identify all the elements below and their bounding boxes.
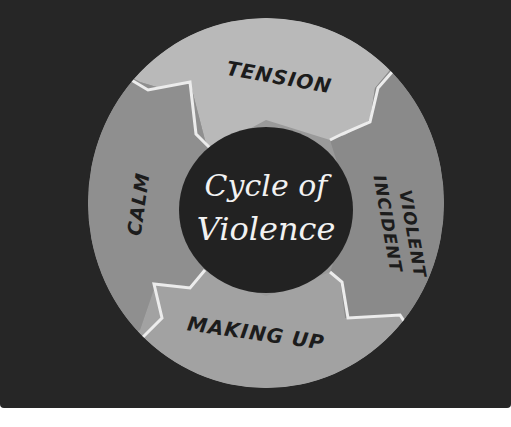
cycle-diagram: Cycle of Violence TENSION VIOLENT INCIDE… — [0, 0, 511, 427]
diagram-title-line1: Cycle of — [205, 168, 333, 203]
diagram-title-line2: Violence — [197, 210, 336, 248]
